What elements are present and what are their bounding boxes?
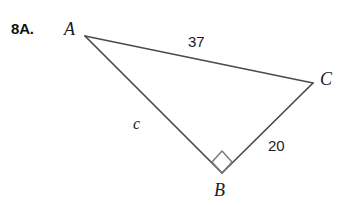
- vertex-label-b: B: [214, 181, 225, 199]
- triangle-diagram: [0, 0, 356, 205]
- side-length-ab-label: c: [133, 116, 140, 132]
- vertex-label-a: A: [64, 20, 75, 38]
- side-length-ac-label: 37: [188, 34, 205, 49]
- vertex-label-c: C: [320, 70, 332, 88]
- triangle-side-ab: [85, 36, 222, 173]
- right-angle-marker-icon: [212, 151, 232, 173]
- side-length-cb-label: 20: [268, 138, 285, 153]
- figure-canvas: 8A. A C B 37 20 c: [0, 0, 356, 205]
- triangle-side-cb: [222, 83, 313, 173]
